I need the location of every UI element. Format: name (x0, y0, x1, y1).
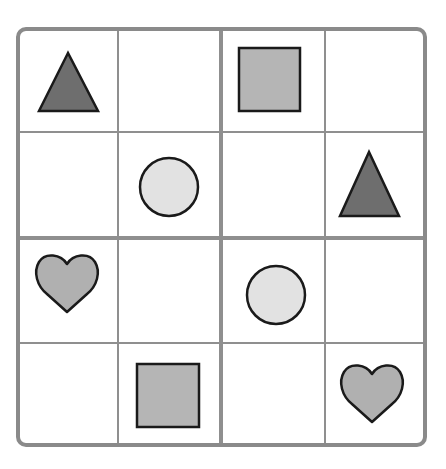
heart-icon (326, 344, 423, 443)
puzzle-board (16, 27, 427, 447)
circle-icon (223, 240, 324, 342)
cell-r2-c1[interactable] (119, 240, 219, 342)
cell-r3-c3[interactable] (326, 344, 423, 443)
triangle-icon (326, 133, 423, 236)
circle-icon (119, 133, 219, 236)
cell-r2-c0[interactable] (20, 240, 117, 342)
cell-r0-c0[interactable] (20, 31, 117, 131)
cell-r1-c3[interactable] (326, 133, 423, 236)
cell-r1-c0[interactable] (20, 133, 117, 236)
cell-r3-c0[interactable] (20, 344, 117, 443)
cell-r0-c1[interactable] (119, 31, 219, 131)
cell-r0-c2[interactable] (223, 31, 324, 131)
triangle-icon (20, 31, 117, 131)
cell-r1-c1[interactable] (119, 133, 219, 236)
cell-r3-c2[interactable] (223, 344, 324, 443)
square-icon (223, 31, 324, 131)
square-icon (119, 344, 219, 443)
cell-r1-c2[interactable] (223, 133, 324, 236)
cell-r2-c2[interactable] (223, 240, 324, 342)
heart-icon (20, 240, 117, 342)
cell-r3-c1[interactable] (119, 344, 219, 443)
cell-r2-c3[interactable] (326, 240, 423, 342)
cell-r0-c3[interactable] (326, 31, 423, 131)
